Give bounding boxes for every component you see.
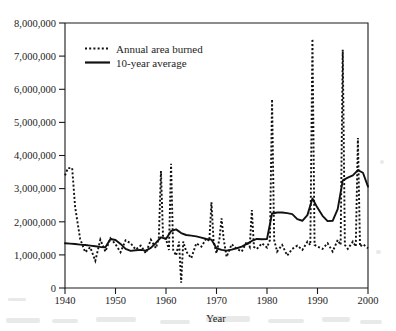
chart-figure: 8,000,000 7,000,000 6,000,000 5,000,000 …: [0, 0, 396, 331]
x-tick-label: 2000: [358, 295, 379, 306]
x-axis-tick-labels: 1940 1950 1960 1970 1980 1990 2000: [55, 295, 379, 306]
x-tick-label: 1980: [257, 295, 278, 306]
x-tick-label: 1990: [307, 295, 328, 306]
y-axis-ticks: [59, 23, 65, 288]
y-tick-label: 2,000,000: [14, 217, 56, 228]
annual-area-burned-chart: 8,000,000 7,000,000 6,000,000 5,000,000 …: [0, 0, 396, 331]
y-axis-tick-labels: 8,000,000 7,000,000 6,000,000 5,000,000 …: [14, 18, 56, 294]
y-tick-label: 4,000,000: [14, 150, 56, 161]
legend-label-annual-area-burned: Annual area burned: [116, 43, 203, 55]
series-annual-area-burned: [65, 39, 368, 283]
y-tick-label: 7,000,000: [14, 51, 56, 62]
x-tick-label: 1960: [156, 295, 177, 306]
x-tick-label: 1950: [105, 295, 126, 306]
y-tick-label: 6,000,000: [14, 84, 56, 95]
x-tick-label: 1940: [55, 295, 76, 306]
y-tick-label: 5,000,000: [14, 117, 56, 128]
y-tick-label: 8,000,000: [14, 18, 56, 29]
x-axis-ticks: [65, 288, 368, 294]
plot-series: [65, 39, 368, 283]
legend: Annual area burned 10-year average: [85, 43, 203, 69]
legend-label-10-year-average: 10-year average: [116, 57, 187, 69]
x-tick-label: 1970: [206, 295, 227, 306]
y-tick-label: 3,000,000: [14, 183, 56, 194]
y-tick-label: 0: [51, 283, 56, 294]
series-10-year-average: [65, 170, 368, 251]
y-tick-label: 1,000,000: [14, 250, 56, 261]
x-axis-title: Year: [206, 313, 226, 324]
